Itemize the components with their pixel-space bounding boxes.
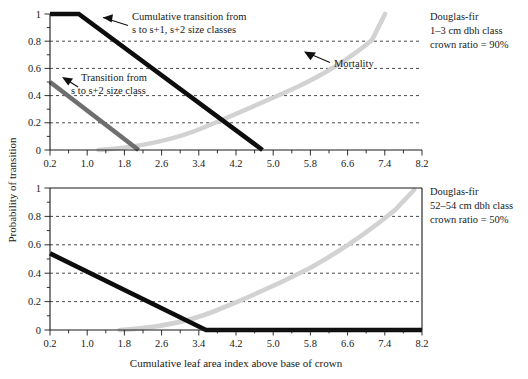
y-tick-label: 0 xyxy=(36,145,41,156)
x-tick-label: 6.6 xyxy=(341,158,354,169)
y-tick-label: 1 xyxy=(36,183,41,194)
panel-top-x-ticklabels: 0.2 1.0 1.8 2.6 3.4 4.2 5.0 5.8 6.6 7.4 … xyxy=(43,158,428,169)
annotation-mortality: Mortality xyxy=(334,58,374,69)
x-tick-label: 8.2 xyxy=(415,338,428,349)
x-tick-label: 3.4 xyxy=(192,158,206,169)
figure-root: 0 0.2 0.4 0.6 0.8 1 xyxy=(0,0,528,379)
y-tick-label: 0.8 xyxy=(28,36,41,47)
x-tick-label: 3.4 xyxy=(192,338,206,349)
panel-bottom-y-ticks xyxy=(45,188,51,330)
chart-canvas: 0 0.2 0.4 0.6 0.8 1 xyxy=(0,0,528,379)
panel-note-line1: Douglas-fir xyxy=(430,186,479,197)
panel-top-y-ticks xyxy=(45,14,51,150)
annotation-transition-line2: s to s+2 size class xyxy=(71,85,146,96)
x-tick-label: 2.6 xyxy=(155,158,168,169)
x-tick-label: 1.0 xyxy=(81,158,94,169)
panel-bottom-gridlines xyxy=(50,216,422,301)
panel-note-line1: Douglas-fir xyxy=(430,11,479,22)
panel-note-line3: crown ratio = 50% xyxy=(430,214,509,225)
y-tick-label: 0.2 xyxy=(28,296,41,307)
panel-top-note: Douglas-fir 1–3 cm dbh class crown ratio… xyxy=(430,11,509,50)
x-tick-label: 1.8 xyxy=(118,158,131,169)
y-tick-label: 0.8 xyxy=(28,211,41,222)
x-tick-label: 1.8 xyxy=(118,338,131,349)
x-tick-label: 0.2 xyxy=(43,158,56,169)
annotation-cumulative-transition: Cumulative transition from s to s+1, s+2… xyxy=(103,11,246,35)
y-tick-label: 0.4 xyxy=(28,268,42,279)
panel-note-line2: 1–3 cm dbh class xyxy=(430,25,503,36)
annotation-transition: Transition from s to s+2 size class xyxy=(62,72,147,96)
x-tick-label: 0.2 xyxy=(43,338,56,349)
x-tick-label: 2.6 xyxy=(155,338,168,349)
annotation-cumulative-line1: Cumulative transition from xyxy=(132,11,246,22)
panel-bottom-y-ticklabels: 0 0.2 0.4 0.6 0.8 1 xyxy=(28,183,42,336)
annotation-cumulative-line2: s to s+1, s+2 size classes xyxy=(132,24,236,35)
y-tick-label: 0.4 xyxy=(28,90,42,101)
panel-top-x-ticks xyxy=(50,150,422,156)
x-tick-label: 4.2 xyxy=(229,158,242,169)
panel-note-line3: crown ratio = 90% xyxy=(430,39,509,50)
panel-bottom-x-ticklabels: 0.2 1.0 1.8 2.6 3.4 4.2 5.0 5.8 6.6 7.4 … xyxy=(43,338,428,349)
y-tick-label: 0.2 xyxy=(28,117,41,128)
y-tick-label: 1 xyxy=(36,9,41,20)
panel-top-y-ticklabels: 0 0.2 0.4 0.6 0.8 1 xyxy=(28,9,42,156)
x-axis-title: Cumulative leaf area index above base of… xyxy=(130,357,343,369)
x-tick-label: 1.0 xyxy=(81,338,94,349)
x-tick-label: 5.0 xyxy=(267,158,280,169)
series-cumulative-bottom xyxy=(50,253,422,330)
x-tick-label: 7.4 xyxy=(378,158,392,169)
y-axis-title: Probability of transition xyxy=(6,137,18,243)
panel-bottom-note: Douglas-fir 52–54 cm dbh class crown rat… xyxy=(430,186,513,225)
x-tick-label: 6.6 xyxy=(341,338,354,349)
x-tick-label: 4.2 xyxy=(229,338,242,349)
annotation-transition-line1: Transition from xyxy=(81,72,147,83)
y-tick-label: 0 xyxy=(36,325,41,336)
y-tick-label: 0.6 xyxy=(28,239,41,250)
x-tick-label: 7.4 xyxy=(378,338,392,349)
panel-bottom-x-ticks xyxy=(50,330,422,336)
x-tick-label: 5.8 xyxy=(304,338,317,349)
x-tick-label: 5.0 xyxy=(267,338,280,349)
x-tick-label: 8.2 xyxy=(415,158,428,169)
panel-bottom: 0 0.2 0.4 0.6 0.8 1 xyxy=(28,183,513,349)
panel-note-line2: 52–54 cm dbh class xyxy=(430,200,513,211)
panel-top: 0 0.2 0.4 0.6 0.8 1 xyxy=(28,9,509,169)
y-tick-label: 0.6 xyxy=(28,63,41,74)
x-tick-label: 5.8 xyxy=(304,158,317,169)
annotation-mortality-top: Mortality xyxy=(304,52,374,69)
